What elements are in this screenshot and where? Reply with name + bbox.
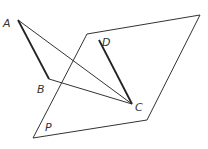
point-label-d: D [102, 36, 110, 49]
spatial-geometry-diagram: A D B C P [0, 0, 208, 149]
point-label-b: B [37, 83, 45, 96]
plane-p [33, 15, 200, 138]
plane-label-p: P [45, 121, 52, 134]
point-label-c: C [135, 101, 143, 114]
segment-dc [99, 40, 132, 104]
segment-bc [49, 79, 132, 104]
point-label-a: A [2, 17, 11, 30]
segment-ab [18, 20, 49, 79]
segment-ac [18, 20, 132, 104]
